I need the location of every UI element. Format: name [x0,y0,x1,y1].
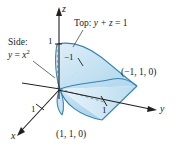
side-annotation-exponent: 2 [27,48,30,55]
side-annotation-prefix: Side: [8,38,30,48]
z-axis-label: z [62,4,66,15]
point-neg-one-one-zero-label: (−1, 1, 0) [121,68,156,78]
side-annotation-equation: y = x2 [8,49,30,61]
x-axis-label: x [11,131,15,142]
negative-y-axis [22,83,60,89]
x-axis [17,90,59,136]
top-annotation-lhs: y + z [94,18,113,28]
top-annotation-rhs: 1 [123,18,128,28]
top-annotation-equals: = [115,18,123,28]
top-surface-annotation: Top: y + z = 1 [74,19,128,29]
side-annotation-lhs: y [8,50,12,60]
point-one-one-zero-label: (1, 1, 0) [56,130,86,140]
top-annotation-prefix: Top: [74,18,91,28]
x-tick-1-label: 1 [31,105,36,114]
neg-one-tick-label: −1 [64,53,74,62]
solid-region-figure: z y x 1 1 1 −1 Top: y + z = 1 Side: y = … [0,0,177,148]
side-surface-annotation: Side: y = x2 [8,38,30,61]
y-axis-label: y [160,104,164,115]
y-tick-1-label: 1 [102,106,107,115]
z-tick-1-label: 1 [48,37,53,46]
